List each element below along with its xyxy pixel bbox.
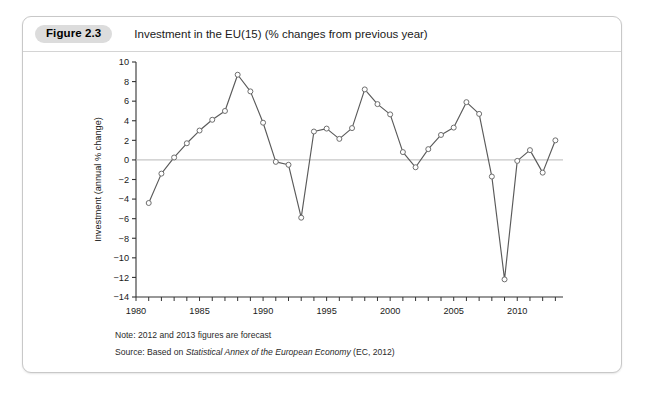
note-text: Note: 2012 and 2013 figures are forecast bbox=[115, 330, 271, 340]
data-point-marker bbox=[337, 136, 342, 141]
data-point-marker bbox=[350, 126, 355, 131]
y-axis-tick-label: −4 bbox=[119, 194, 129, 204]
y-axis-tick-label: −8 bbox=[119, 234, 129, 244]
y-axis-tick-label: −12 bbox=[113, 273, 129, 283]
data-point-marker bbox=[527, 148, 532, 153]
x-axis-tick-label: 2010 bbox=[507, 306, 527, 316]
data-point-marker bbox=[388, 112, 393, 117]
y-axis-tick-label: 4 bbox=[124, 116, 129, 126]
data-point-marker bbox=[540, 170, 545, 175]
data-point-marker bbox=[426, 147, 431, 152]
chart-plot-area: −14−12−10−8−6−4−20246810 198019851990199… bbox=[23, 52, 621, 332]
figure-header: Figure 2.3 Investment in the EU(15) (% c… bbox=[23, 17, 621, 52]
y-axis: −14−12−10−8−6−4−20246810 bbox=[113, 57, 136, 302]
source-line: Source: Based on Statistical Annex of th… bbox=[115, 344, 395, 361]
y-axis-title: Investment (annual % change) bbox=[93, 117, 103, 242]
data-point-marker bbox=[489, 174, 494, 179]
data-point-marker bbox=[146, 201, 151, 206]
y-axis-label: Investment (annual % change) bbox=[93, 117, 103, 242]
figure-body: −14−12−10−8−6−4−20246810 198019851990199… bbox=[23, 52, 621, 374]
y-axis-tick-label: −2 bbox=[119, 175, 129, 185]
data-point-marker bbox=[235, 72, 240, 77]
data-point-marker bbox=[362, 87, 367, 92]
data-point-marker bbox=[299, 215, 304, 220]
line-chart: −14−12−10−8−6−4−20246810 198019851990199… bbox=[23, 52, 621, 332]
data-point-marker bbox=[375, 102, 380, 107]
figure-title: Investment in the EU(15) (% changes from… bbox=[134, 28, 427, 40]
data-point-marker bbox=[273, 159, 278, 164]
data-point-marker bbox=[184, 141, 189, 146]
source-prefix: Source: Based on bbox=[115, 347, 186, 357]
x-axis-tick-label: 2000 bbox=[380, 306, 400, 316]
y-axis-tick-label: −10 bbox=[113, 253, 129, 263]
data-point-marker bbox=[477, 111, 482, 116]
data-point-marker bbox=[311, 129, 316, 134]
data-point-marker bbox=[248, 89, 253, 94]
data-point-marker bbox=[159, 171, 164, 176]
y-axis-tick-label: 10 bbox=[119, 57, 129, 67]
figure-number-badge: Figure 2.3 bbox=[35, 25, 112, 44]
data-point-marker bbox=[502, 277, 507, 282]
data-point-marker bbox=[451, 125, 456, 130]
data-point-marker bbox=[222, 108, 227, 113]
data-point-marker bbox=[324, 126, 329, 131]
data-point-marker bbox=[261, 120, 266, 125]
x-axis-tick-label: 1990 bbox=[253, 306, 273, 316]
note-line: Note: 2012 and 2013 figures are forecast bbox=[115, 327, 395, 344]
data-point-marker bbox=[210, 117, 215, 122]
data-point-marker bbox=[286, 162, 291, 167]
data-point-marker bbox=[413, 165, 418, 170]
y-axis-tick-label: −14 bbox=[113, 292, 129, 302]
y-axis-tick-label: 8 bbox=[124, 77, 129, 87]
source-suffix: (EC, 2012) bbox=[351, 347, 395, 357]
y-axis-tick-label: 6 bbox=[124, 96, 129, 106]
x-axis-tick-label: 2005 bbox=[443, 306, 463, 316]
source-publication: Statistical Annex of the European Econom… bbox=[186, 347, 351, 357]
data-point-marker bbox=[439, 132, 444, 137]
figure-card: Figure 2.3 Investment in the EU(15) (% c… bbox=[22, 16, 622, 373]
data-point-marker bbox=[172, 155, 177, 160]
data-series-investment bbox=[146, 72, 558, 282]
data-point-marker bbox=[553, 138, 558, 143]
x-axis-tick-label: 1995 bbox=[316, 306, 336, 316]
y-axis-tick-label: 2 bbox=[124, 136, 129, 146]
x-axis: 1980198519901995200020052010 bbox=[126, 297, 563, 316]
y-axis-tick-label: −6 bbox=[119, 214, 129, 224]
data-point-marker bbox=[197, 128, 202, 133]
footnotes-block: Note: 2012 and 2013 figures are forecast… bbox=[115, 327, 395, 361]
data-point-marker bbox=[464, 100, 469, 105]
x-axis-tick-label: 1985 bbox=[189, 306, 209, 316]
data-point-marker bbox=[400, 150, 405, 155]
x-axis-tick-label: 1980 bbox=[126, 306, 146, 316]
data-point-marker bbox=[515, 158, 520, 163]
y-axis-tick-label: 0 bbox=[124, 155, 129, 165]
